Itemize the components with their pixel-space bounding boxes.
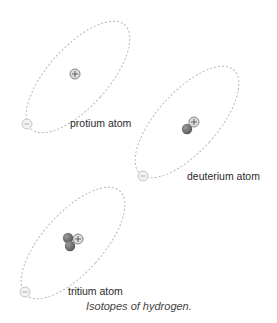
figure-caption: Isotopes of hydrogen. [86, 300, 192, 312]
tritium-label: tritium atom [68, 285, 123, 297]
proton-icon [73, 234, 83, 244]
proton-icon [189, 117, 199, 127]
electron-icon [138, 171, 148, 181]
electron-icon [20, 287, 30, 297]
deuterium-label: deuterium atom [187, 170, 260, 182]
neutron-icon [65, 241, 75, 251]
proton-icon [70, 69, 80, 79]
electron-icon [22, 119, 32, 129]
isotope-diagram [0, 0, 277, 323]
protium-label: protium atom [70, 117, 131, 129]
